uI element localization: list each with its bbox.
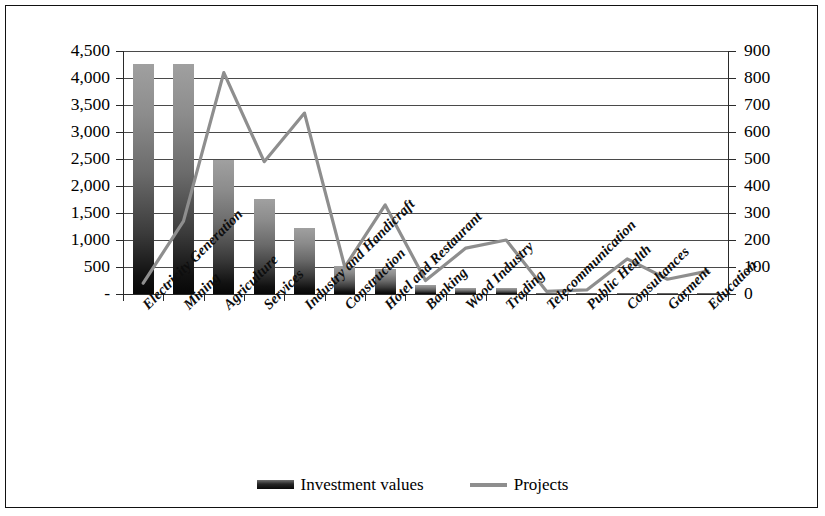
right-axis-tick-label: 700 (744, 96, 804, 114)
legend-item-investment-values: Investment values (257, 476, 424, 493)
left-axis-tick-label: 4,500 (28, 42, 110, 60)
right-axis-tick-label: 0 (744, 285, 804, 303)
right-axis-tick-label: 900 (744, 42, 804, 60)
category-tick (365, 294, 366, 301)
category-tick (486, 294, 487, 301)
legend-item-projects: Projects (470, 476, 569, 493)
category-tick (204, 294, 205, 301)
category-tick (607, 294, 608, 301)
projects-line (123, 51, 728, 294)
right-axis-tick-label: 300 (744, 204, 804, 222)
category-tick (526, 294, 527, 301)
category-tick (244, 294, 245, 301)
category-tick (647, 294, 648, 301)
left-axis-tick-label: 500 (28, 258, 110, 276)
right-axis-tick-label: 800 (744, 69, 804, 87)
category-tick (728, 294, 729, 301)
chart-legend: Investment values Projects (6, 476, 819, 493)
right-axis-tick (728, 213, 736, 214)
category-tick (567, 294, 568, 301)
right-axis-tick (728, 105, 736, 106)
left-axis-tick-label: 3,500 (28, 96, 110, 114)
right-axis-tick (728, 51, 736, 52)
left-axis-tick-label: 2,500 (28, 150, 110, 168)
line-swatch-icon (470, 483, 507, 487)
legend-label-investment-values: Investment values (301, 476, 424, 493)
chart-frame: -5001,0001,5002,0002,5003,0003,5004,0004… (5, 5, 818, 508)
category-tick (163, 294, 164, 301)
left-axis-tick-label: 3,000 (28, 123, 110, 141)
right-axis-tick-label: 200 (744, 231, 804, 249)
right-axis-tick (728, 78, 736, 79)
right-axis-tick (728, 294, 736, 295)
category-tick (325, 294, 326, 301)
category-tick (446, 294, 447, 301)
left-axis-tick-label: 2,000 (28, 177, 110, 195)
category-tick (688, 294, 689, 301)
right-axis-tick-label: 400 (744, 177, 804, 195)
category-axis-line (123, 294, 728, 295)
left-axis-tick-label: 1,500 (28, 204, 110, 222)
right-axis-tick (728, 186, 736, 187)
right-axis-tick (728, 240, 736, 241)
left-axis-tick-label: 4,000 (28, 69, 110, 87)
bar-swatch-icon (257, 480, 294, 489)
category-tick (405, 294, 406, 301)
left-axis-tick-label: 1,000 (28, 231, 110, 249)
left-axis-tick-label: - (28, 285, 110, 303)
right-axis-tick (728, 267, 736, 268)
right-axis-tick-label: 500 (744, 150, 804, 168)
category-tick (284, 294, 285, 301)
right-axis-tick-label: 600 (744, 123, 804, 141)
right-axis-tick (728, 159, 736, 160)
right-axis-tick (728, 132, 736, 133)
right-axis-line (728, 51, 729, 294)
category-tick (123, 294, 124, 301)
legend-label-projects: Projects (514, 476, 569, 493)
right-axis-tick-label: 100 (744, 258, 804, 276)
